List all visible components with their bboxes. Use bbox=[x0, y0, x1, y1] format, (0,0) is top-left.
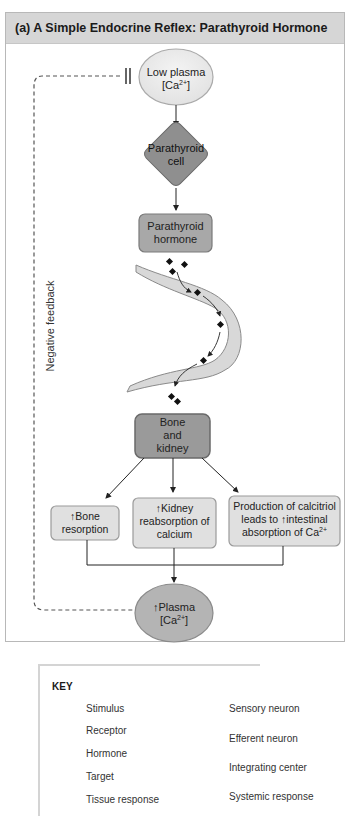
target-line1: Bone bbox=[135, 416, 210, 429]
hormone-label: Parathyroid hormone bbox=[139, 220, 212, 246]
key-label-systemic-response: Systemic response bbox=[229, 791, 313, 802]
stimulus-label: Low plasma [Ca2+] bbox=[146, 66, 206, 92]
response-bone-label: ↑Bone resorption bbox=[51, 510, 119, 536]
response-intestine-label: Production of calcitriol leads to ↑intes… bbox=[229, 500, 340, 539]
hormone-line2: hormone bbox=[139, 233, 212, 246]
systemic-line2: [Ca2+] bbox=[140, 614, 208, 627]
systemic-line1: ↑Plasma bbox=[140, 601, 208, 614]
hormone-line1: Parathyroid bbox=[139, 220, 212, 233]
stimulus-line2: [Ca2+] bbox=[146, 79, 206, 92]
negative-feedback-label: Negative feedback bbox=[44, 256, 56, 396]
systemic-response-label: ↑Plasma [Ca2+] bbox=[140, 601, 208, 627]
response-kidney-label: ↑Kidney reabsorption of calcium bbox=[133, 502, 216, 541]
key-label-sensory-neuron: Sensory neuron bbox=[229, 703, 300, 714]
key-label-hormone: Hormone bbox=[86, 748, 127, 759]
blood-vessel-illustration bbox=[127, 258, 241, 405]
key-label-receptor: Receptor bbox=[86, 725, 127, 736]
integrating-center-label: Parathyroid cell bbox=[141, 142, 211, 168]
response-intestine-line3: absorption of Ca2+ bbox=[229, 526, 340, 539]
target-label: Bone and kidney bbox=[135, 416, 210, 455]
key-label-target: Target bbox=[86, 771, 114, 782]
target-line2: and bbox=[135, 429, 210, 442]
key-label-stimulus: Stimulus bbox=[86, 703, 124, 714]
key-label-integrating-center: Integrating center bbox=[229, 762, 307, 773]
response-kidney-line2: reabsorption of bbox=[133, 515, 216, 528]
key-label-efferent-neuron: Efferent neuron bbox=[229, 733, 298, 744]
response-intestine-line1: Production of calcitriol bbox=[229, 500, 340, 513]
response-kidney-line1: ↑Kidney bbox=[133, 502, 216, 515]
key-title: KEY bbox=[52, 681, 73, 692]
stimulus-line1: Low plasma bbox=[146, 66, 206, 79]
target-line3: kidney bbox=[135, 442, 210, 455]
key-label-tissue-response: Tissue response bbox=[86, 794, 159, 805]
response-intestine-line2: leads to ↑intestinal bbox=[229, 513, 340, 526]
response-bone-line2: resorption bbox=[51, 523, 119, 536]
response-kidney-line3: calcium bbox=[133, 528, 216, 541]
integrating-line2: cell bbox=[141, 155, 211, 168]
integrating-line1: Parathyroid bbox=[141, 142, 211, 155]
response-bone-line1: ↑Bone bbox=[51, 510, 119, 523]
